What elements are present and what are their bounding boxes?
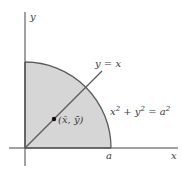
centroid-label: (x̄, ȳ) [58, 114, 84, 125]
radius-label: a [106, 150, 112, 161]
x-axis-label: x [171, 150, 177, 161]
diagram-canvas: y x a y = x (x̄, ȳ) x2 + y2 = a2 [0, 0, 183, 174]
eq-a-exp: 2 [165, 105, 171, 113]
eq-plus: + [120, 106, 135, 117]
circle-equation: x2 + y2 = a2 [110, 105, 171, 117]
centroid-point [52, 117, 56, 121]
line-label: y = x [94, 58, 121, 69]
quarter-circle-diagram: y x a y = x (x̄, ȳ) x2 + y2 = a2 [0, 0, 183, 174]
y-axis-label: y [29, 11, 36, 22]
eq-equals: = [145, 106, 160, 117]
